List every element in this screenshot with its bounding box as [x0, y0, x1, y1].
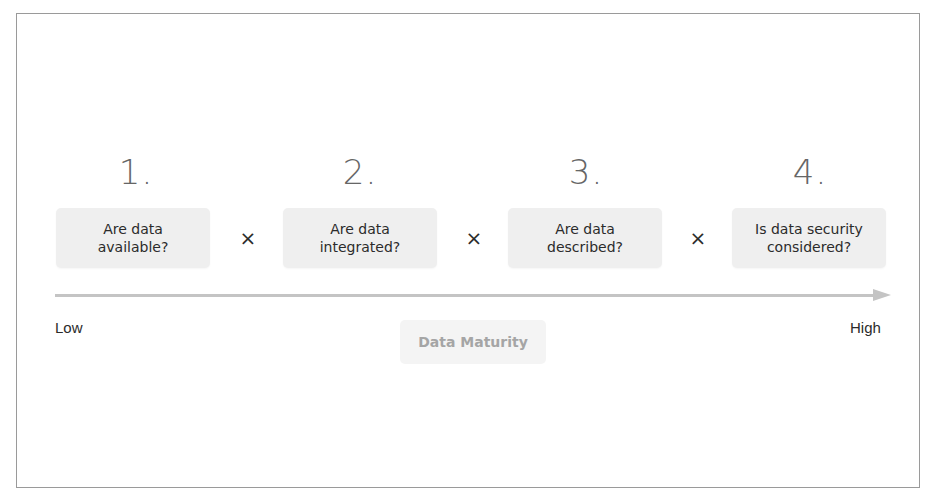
- step-question-3: Are data described?: [535, 220, 635, 256]
- multiply-icon: ×: [462, 226, 486, 250]
- step-question-1: Are data available?: [88, 220, 178, 256]
- step-number-2: 2.: [280, 152, 440, 192]
- axis-low-label: Low: [55, 318, 83, 338]
- multiply-icon: ×: [236, 226, 260, 250]
- step-box-data-integrated: Are data integrated?: [283, 208, 437, 268]
- maturity-axis-line: [55, 294, 875, 297]
- step-question-2: Are data integrated?: [310, 220, 410, 256]
- axis-title-data-maturity: Data Maturity: [400, 320, 546, 364]
- step-box-data-security: Is data security considered?: [732, 208, 886, 268]
- step-question-4: Is data security considered?: [739, 220, 879, 256]
- step-number-3: 3.: [506, 152, 666, 192]
- step-box-data-described: Are data described?: [508, 208, 662, 268]
- axis-high-label: High: [850, 318, 881, 338]
- step-number-4: 4.: [730, 152, 890, 192]
- arrow-right-icon: [873, 289, 891, 301]
- step-number-1: 1.: [56, 152, 216, 192]
- multiply-icon: ×: [686, 226, 710, 250]
- step-box-data-available: Are data available?: [56, 208, 210, 268]
